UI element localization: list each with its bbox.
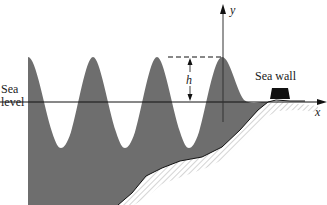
height-arrow-up-icon	[188, 58, 193, 65]
x-axis-label: x	[314, 105, 321, 119]
y-axis-arrow-icon	[220, 4, 226, 14]
sea-wall	[270, 88, 290, 99]
sea-level-label-line2: level	[1, 95, 25, 109]
tsunami-diagram: h y x Sea wall Sea level	[0, 0, 327, 205]
sea-wall-label: Sea wall	[255, 69, 297, 83]
y-axis-label: y	[229, 3, 236, 17]
sea-level-label-line1: Sea	[1, 82, 19, 96]
height-arrow-down-icon	[188, 94, 193, 101]
height-label: h	[186, 73, 192, 87]
